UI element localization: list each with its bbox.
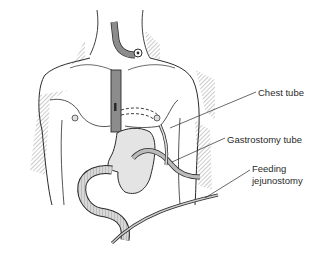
clavicles bbox=[70, 65, 175, 70]
dashed-path bbox=[121, 108, 158, 120]
anatomy-diagram bbox=[0, 0, 328, 259]
esophagus bbox=[111, 70, 121, 132]
stomach bbox=[108, 128, 155, 193]
label-feeding-jejunostomy-line2: jejunostomy bbox=[252, 175, 303, 186]
nipple-left bbox=[72, 115, 78, 121]
label-feeding-jejunostomy-line1: Feeding bbox=[252, 163, 286, 174]
label-gastrostomy-tube: Gastrostomy tube bbox=[227, 134, 302, 145]
label-chest-tube: Chest tube bbox=[258, 87, 304, 98]
